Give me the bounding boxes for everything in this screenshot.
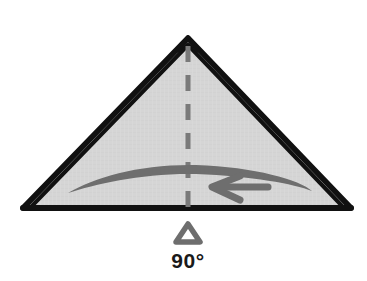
origami-diagram: 90°: [0, 0, 367, 281]
angle-value-label: 90°: [171, 249, 204, 272]
diagram-canvas: 90°: [0, 0, 367, 281]
